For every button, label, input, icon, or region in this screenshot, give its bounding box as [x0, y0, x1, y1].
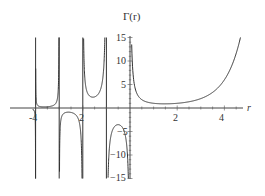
x-tick-label-4: 4: [219, 112, 224, 123]
x-tick-label-neg4: -4: [29, 112, 37, 123]
gamma-function-chart: Γ(r) r -4 2 2 4 15 10 5 −5 −10 −15: [0, 0, 265, 196]
y-tick-label-15: 15: [116, 32, 126, 43]
gamma-curve-segment: [132, 38, 241, 104]
x-tick-label-2: 2: [173, 112, 178, 123]
y-tick-label-neg10: −10: [110, 149, 126, 160]
y-tick-label-5: 5: [121, 79, 126, 90]
y-tick-label-neg15: −15: [110, 172, 126, 183]
chart-title: Γ(r): [123, 10, 141, 23]
gamma-curve-segment: [36, 38, 59, 107]
x-tick-label-neg2: 2: [79, 112, 84, 123]
y-tick-label-10: 10: [116, 55, 126, 66]
gamma-curve-segment: [84, 38, 105, 98]
x-axis-label: r: [247, 102, 251, 113]
y-tick-label-neg5: −5: [117, 126, 128, 137]
